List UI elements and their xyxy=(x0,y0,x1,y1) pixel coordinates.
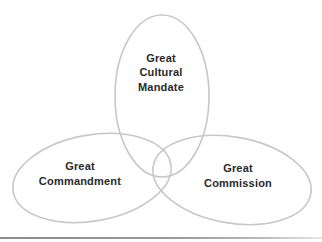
label-great-cultural-mandate: Great Cultural Mandate xyxy=(138,52,184,93)
label-line: Commission xyxy=(204,177,272,189)
ellipse-great-cultural-mandate xyxy=(115,15,209,177)
label-great-commission: Great Commission xyxy=(204,162,272,189)
bottom-divider xyxy=(0,237,322,239)
label-line: Great xyxy=(65,160,95,172)
label-line: Great xyxy=(146,52,176,64)
label-line: Cultural xyxy=(139,66,182,78)
label-line: Great xyxy=(223,162,253,174)
label-great-commandment: Great Commandment xyxy=(39,160,121,187)
label-line: Commandment xyxy=(39,175,121,187)
label-line: Mandate xyxy=(138,81,184,93)
three-ellipse-diagram: Great Cultural Mandate Great Commandment… xyxy=(0,0,322,242)
